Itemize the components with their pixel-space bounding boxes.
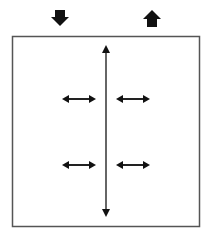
diagram-canvas	[0, 0, 212, 240]
down-arrow-icon	[51, 10, 69, 26]
up-arrow-icon	[143, 10, 161, 27]
